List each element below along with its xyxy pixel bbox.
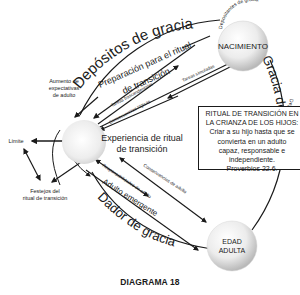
- node-adult-label-1: EDAD: [222, 238, 241, 245]
- logical-consequences-arrow: [100, 96, 178, 130]
- node-birth-label: NACIMIENTO: [218, 42, 268, 51]
- celebrations-label-2: ritual de transición: [23, 195, 68, 201]
- expectations-label-2: expectativas: [49, 85, 80, 91]
- node-center-label-2: de transición: [116, 144, 167, 154]
- box-line-5: capaz, responsable e: [201, 146, 300, 155]
- box-line-7: Proverbios 22.6.: [201, 164, 300, 173]
- node-center-label-1: Experiencia de ritual: [101, 133, 183, 143]
- adult-consequences-label: Consecuencias de adulto: [142, 163, 188, 195]
- limit-label: Límite: [9, 138, 24, 144]
- adult-sphere: [207, 221, 257, 271]
- box-line-2: LA CRIANZA DE LOS HIJOS:: [201, 118, 300, 127]
- adult-consequences-arrow: [120, 158, 206, 222]
- expectations-label-1: Aumento de: [49, 78, 79, 84]
- box-line-4: convierta en un adulto: [201, 137, 300, 146]
- box-line-1: RITUAL DE TRANSICIÓN EN: [201, 109, 300, 118]
- center-sphere: [62, 120, 106, 164]
- box-line-3: Criar a su hijo hasta que se: [201, 127, 300, 136]
- diagram-caption: DIAGRAMA 18: [0, 277, 300, 287]
- node-adult-label-2: ADULTA: [219, 247, 246, 254]
- expectations-arrow: [75, 97, 98, 117]
- ritual-definition-box: RITUAL DE TRANSICIÓN EN LA CRIANZA DE LO…: [198, 106, 300, 170]
- celebrations-label-1: Festejos del: [30, 188, 60, 194]
- expectations-label-3: de adulto: [53, 92, 76, 98]
- limit-celebrations-arrow: [24, 149, 40, 180]
- box-line-6: independiente.: [201, 155, 300, 164]
